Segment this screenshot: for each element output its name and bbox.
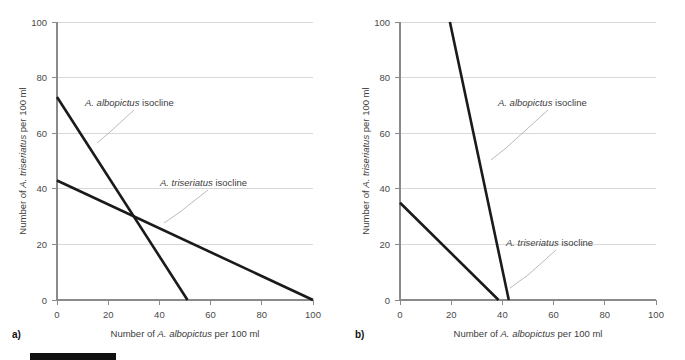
- y-axis-title-a-species: A. triseriatus: [17, 135, 28, 189]
- leader-albopictus-a: [97, 110, 134, 143]
- x-axis-title-b: Number of A. albopictus per 100 ml: [454, 328, 603, 339]
- y-tick-label-b-100: 100: [374, 17, 390, 28]
- isocline-albopictus-b: [450, 22, 509, 300]
- isocline-albopictus-a: [57, 97, 188, 300]
- y-tick-label-b-20: 20: [379, 239, 390, 250]
- x-tick-label-a-80: 80: [257, 309, 268, 320]
- gridlines-a: [57, 22, 313, 244]
- panel-a-plot: 100 80 60 40 20 0 0 20 40 60 80 100 A. a…: [0, 0, 343, 360]
- panel-a: 100 80 60 40 20 0 0 20 40 60 80 100 A. a…: [0, 0, 343, 360]
- y-axis-title-b-suffix: per 100 ml: [360, 87, 371, 135]
- y-axis-title-a: Number of A. triseriatus per 100 ml: [17, 87, 28, 234]
- annotation-albopictus-b-species: A. albopictus: [497, 97, 553, 108]
- x-tick-label-b-60: 60: [548, 309, 559, 320]
- x-tick-label-a-40: 40: [154, 309, 165, 320]
- x-axis-title-b-prefix: Number of: [454, 328, 501, 339]
- y-axis-title-a-prefix: Number of: [17, 188, 28, 235]
- annotation-triseriatus-a-species: A. triseriatus: [159, 177, 213, 188]
- isocline-triseriatus-b: [400, 203, 499, 300]
- gridlines-b: [400, 22, 656, 244]
- annotation-albopictus-a-suffix: isocline: [139, 97, 173, 108]
- y-tick-label-a-60: 60: [36, 128, 47, 139]
- x-tick-label-b-80: 80: [600, 309, 611, 320]
- annotation-triseriatus-b: A. triseriatus isocline: [505, 237, 593, 248]
- y-axis-title-b: Number of A. triseriatus per 100 ml: [360, 87, 371, 234]
- y-tick-label-a-20: 20: [36, 239, 47, 250]
- leader-triseriatus-a: [164, 190, 208, 223]
- isocline-figure: 100 80 60 40 20 0 0 20 40 60 80 100 A. a…: [0, 0, 685, 360]
- x-ticks-a: [57, 300, 313, 305]
- panel-b: 100 80 60 40 20 0 0 20 40 60 80 100 A. a…: [343, 0, 685, 360]
- annotation-albopictus-a: A. albopictus isocline: [84, 97, 174, 108]
- annotation-albopictus-b-suffix: isocline: [552, 97, 586, 108]
- x-tick-label-b-40: 40: [497, 309, 508, 320]
- y-axis-title-b-prefix: Number of: [360, 188, 371, 235]
- x-tick-label-a-20: 20: [103, 309, 114, 320]
- y-tick-label-a-40: 40: [36, 183, 47, 194]
- x-axis-title-b-species: A. albopictus: [500, 328, 556, 339]
- y-tick-label-a-80: 80: [36, 72, 47, 83]
- x-tick-label-b-0: 0: [397, 309, 402, 320]
- x-axis-title-a-suffix: per 100 ml: [212, 328, 260, 339]
- x-tick-label-b-100: 100: [648, 309, 664, 320]
- x-axis-title-a-species: A. albopictus: [157, 328, 213, 339]
- x-axis-title-a: Number of A. albopictus per 100 ml: [111, 328, 260, 339]
- panel-b-plot: 100 80 60 40 20 0 0 20 40 60 80 100 A. a…: [343, 0, 685, 360]
- y-ticks-b: [395, 22, 400, 300]
- y-tick-label-a-0: 0: [42, 295, 47, 306]
- panel-letter-b: b): [355, 329, 364, 340]
- annotation-albopictus-b: A. albopictus isocline: [497, 97, 587, 108]
- x-tick-label-a-60: 60: [205, 309, 216, 320]
- annotation-triseriatus-a: A. triseriatus isocline: [159, 177, 247, 188]
- isocline-triseriatus-a: [57, 180, 313, 300]
- x-axis-title-a-prefix: Number of: [111, 328, 158, 339]
- panel-letter-a: a): [12, 329, 21, 340]
- annotation-triseriatus-b-species: A. triseriatus: [505, 237, 559, 248]
- x-tick-label-a-0: 0: [54, 309, 59, 320]
- annotation-triseriatus-a-suffix: isocline: [213, 177, 247, 188]
- y-tick-label-b-0: 0: [385, 295, 390, 306]
- x-ticks-b: [400, 300, 656, 305]
- x-tick-label-b-20: 20: [446, 309, 457, 320]
- y-tick-label-b-60: 60: [379, 128, 390, 139]
- leader-triseriatus-b: [510, 250, 556, 288]
- annotation-triseriatus-b-suffix: isocline: [559, 237, 593, 248]
- annotation-albopictus-a-species: A. albopictus: [84, 97, 140, 108]
- y-ticks-a: [52, 22, 57, 300]
- x-tick-label-a-100: 100: [305, 309, 321, 320]
- y-tick-label-b-40: 40: [379, 183, 390, 194]
- leader-albopictus-b: [491, 110, 548, 160]
- y-axis-title-a-suffix: per 100 ml: [17, 87, 28, 135]
- x-axis-title-b-suffix: per 100 ml: [555, 328, 603, 339]
- y-tick-label-b-80: 80: [379, 72, 390, 83]
- y-axis-title-b-species: A. triseriatus: [360, 135, 371, 189]
- footer-rule: [30, 353, 116, 360]
- y-tick-label-a-100: 100: [31, 17, 47, 28]
